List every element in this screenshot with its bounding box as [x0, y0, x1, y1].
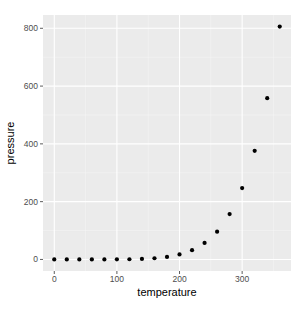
data-point	[77, 257, 81, 261]
y-axis: 0200400600800	[24, 23, 43, 264]
y-axis-title: pressure	[4, 122, 16, 165]
data-point	[228, 212, 232, 216]
x-tick-label: 200	[172, 274, 186, 284]
x-axis-title: temperature	[137, 286, 196, 298]
data-point	[215, 230, 219, 234]
data-point	[90, 257, 94, 261]
x-tick-label: 300	[235, 274, 249, 284]
plot-panel	[43, 15, 291, 271]
data-point	[127, 257, 131, 261]
y-tick-label: 0	[33, 254, 38, 264]
data-point	[152, 256, 156, 260]
data-point	[140, 257, 144, 261]
x-tick-label: 100	[110, 274, 124, 284]
data-point	[202, 241, 206, 245]
data-point	[265, 96, 269, 100]
data-point	[190, 248, 194, 252]
x-axis: 0100200300	[52, 271, 250, 284]
data-point	[253, 149, 257, 153]
data-point	[240, 186, 244, 190]
y-tick-label: 800	[24, 23, 38, 33]
scatter-chart: 0100200300 0200400600800 temperature pre…	[0, 0, 306, 311]
data-point	[165, 255, 169, 259]
y-tick-label: 200	[24, 197, 38, 207]
data-point	[65, 257, 69, 261]
data-point	[177, 252, 181, 256]
x-tick-label: 0	[52, 274, 57, 284]
data-point	[278, 24, 282, 28]
data-point	[115, 257, 119, 261]
y-tick-label: 600	[24, 81, 38, 91]
y-tick-label: 400	[24, 139, 38, 149]
data-point	[52, 257, 56, 261]
data-point	[102, 257, 106, 261]
